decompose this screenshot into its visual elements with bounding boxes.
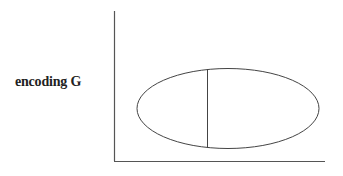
diagram-canvas xyxy=(0,0,343,176)
encoding-diagram: encoding G xyxy=(0,0,343,176)
region-ellipse xyxy=(137,69,319,149)
